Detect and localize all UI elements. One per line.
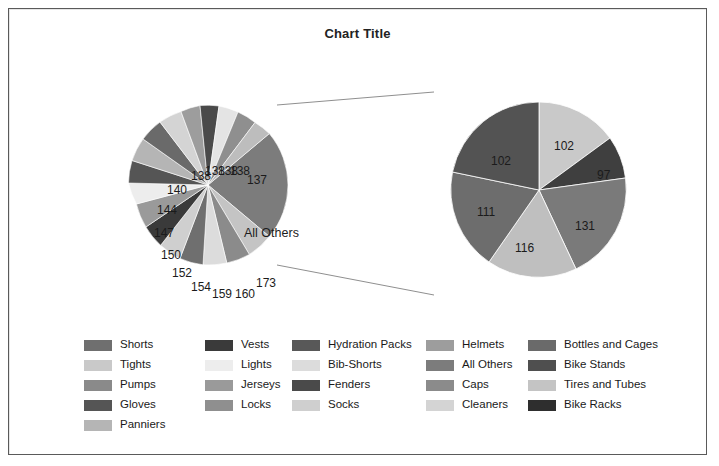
pie-label-secondary: 102 <box>491 154 511 168</box>
legend-swatch-icon <box>292 340 320 351</box>
legend-item[interactable]: Lights <box>205 355 281 375</box>
legend-swatch-icon <box>84 360 112 371</box>
legend-swatch-icon <box>205 340 233 351</box>
connector-line-top <box>277 92 434 105</box>
legend-swatch-icon <box>528 340 556 351</box>
legend-swatch-icon <box>426 360 454 371</box>
pie-label-secondary: 116 <box>515 241 534 255</box>
legend-swatch-icon <box>528 360 556 371</box>
legend-item[interactable]: Cleaners <box>426 395 513 415</box>
chart-title: Chart Title <box>9 26 706 41</box>
legend-swatch-icon <box>205 380 233 391</box>
legend-item-label: Bottles and Cages <box>564 339 658 351</box>
legend-item[interactable]: Bike Racks <box>528 395 658 415</box>
legend-item[interactable]: All Others <box>426 355 513 375</box>
legend-item-label: Helmets <box>462 339 504 351</box>
legend-item[interactable]: Gloves <box>84 395 165 415</box>
pie-label: 154 <box>191 280 211 294</box>
pie-label: 147 <box>154 226 174 240</box>
legend-swatch-icon <box>205 360 233 371</box>
legend-item[interactable]: Helmets <box>426 335 513 355</box>
pie-label-secondary: 102 <box>554 139 574 153</box>
primary-pie: All Others 138 138 138 138 137 140 144 1… <box>129 105 299 301</box>
legend-item-label: Gloves <box>120 399 156 411</box>
legend-item-label: Panniers <box>120 419 165 431</box>
legend-item-label: Pumps <box>120 379 156 391</box>
legend-swatch-icon <box>205 400 233 411</box>
pie-label: 160 <box>235 287 255 301</box>
legend-column: Bottles and CagesBike StandsTires and Tu… <box>528 335 658 415</box>
plot-area: All Others 138 138 138 138 137 140 144 1… <box>9 47 708 327</box>
legend-item-label: Cleaners <box>462 399 508 411</box>
connector-line-bottom <box>277 265 434 295</box>
legend-item[interactable]: Shorts <box>84 335 165 355</box>
legend-item-label: Tires and Tubes <box>564 379 646 391</box>
pie-label: 173 <box>256 276 276 290</box>
pie-label-all-others: All Others <box>244 226 299 240</box>
legend-swatch-icon <box>292 360 320 371</box>
legend-item-label: Hydration Packs <box>328 339 412 351</box>
legend-swatch-icon <box>426 380 454 391</box>
legend-item[interactable]: Panniers <box>84 415 165 435</box>
legend-item-label: Lights <box>241 359 272 371</box>
legend-item-label: Caps <box>462 379 489 391</box>
legend-item-label: Fenders <box>328 379 370 391</box>
legend-item-label: Bib-Shorts <box>328 359 382 371</box>
legend-item[interactable]: Fenders <box>292 375 412 395</box>
legend-column: Hydration PacksBib-ShortsFendersSocks <box>292 335 412 415</box>
legend-item-label: Socks <box>328 399 359 411</box>
pie-label: 144 <box>157 203 177 217</box>
legend-swatch-icon <box>84 420 112 431</box>
legend-column: HelmetsAll OthersCapsCleaners <box>426 335 513 415</box>
pie-label-secondary: 97 <box>597 168 611 182</box>
legend-item[interactable]: Tires and Tubes <box>528 375 658 395</box>
legend-swatch-icon <box>426 340 454 351</box>
legend-swatch-icon <box>426 400 454 411</box>
legend-item-label: Jerseys <box>241 379 281 391</box>
legend-item[interactable]: Pumps <box>84 375 165 395</box>
legend-swatch-icon <box>84 340 112 351</box>
pie-label-secondary: 131 <box>575 219 595 233</box>
pie-label: 150 <box>161 248 181 262</box>
pie-label: 140 <box>167 183 187 197</box>
legend-item-label: Bike Racks <box>564 399 622 411</box>
legend-item[interactable]: Vests <box>205 335 281 355</box>
legend-swatch-icon <box>84 380 112 391</box>
pie-label-secondary: 111 <box>477 205 496 219</box>
legend-swatch-icon <box>84 400 112 411</box>
legend-item-label: All Others <box>462 359 513 371</box>
legend-item-label: Locks <box>241 399 271 411</box>
pie-label: 137 <box>247 173 267 187</box>
legend-item[interactable]: Bike Stands <box>528 355 658 375</box>
legend-item-label: Shorts <box>120 339 153 351</box>
legend-item[interactable]: Caps <box>426 375 513 395</box>
legend-item[interactable]: Socks <box>292 395 412 415</box>
chart-frame: Chart Title <box>8 8 707 455</box>
chart-legend: ShortsTightsPumpsGlovesPanniers VestsLig… <box>9 335 708 435</box>
legend-swatch-icon <box>528 380 556 391</box>
legend-item-label: Bike Stands <box>564 359 625 371</box>
pie-label: 159 <box>212 287 232 301</box>
legend-swatch-icon <box>292 400 320 411</box>
legend-item-label: Vests <box>241 339 269 351</box>
legend-item[interactable]: Hydration Packs <box>292 335 412 355</box>
legend-item-label: Tights <box>120 359 151 371</box>
legend-swatch-icon <box>528 400 556 411</box>
legend-item[interactable]: Bottles and Cages <box>528 335 658 355</box>
legend-column: VestsLightsJerseysLocks <box>205 335 281 415</box>
pie-of-pie-svg: All Others 138 138 138 138 137 140 144 1… <box>9 47 708 327</box>
legend-column: ShortsTightsPumpsGlovesPanniers <box>84 335 165 435</box>
legend-item[interactable]: Locks <box>205 395 281 415</box>
legend-item[interactable]: Bib-Shorts <box>292 355 412 375</box>
legend-item[interactable]: Jerseys <box>205 375 281 395</box>
legend-item[interactable]: Tights <box>84 355 165 375</box>
pie-label: 152 <box>172 266 192 280</box>
legend-swatch-icon <box>292 380 320 391</box>
secondary-pie: 102 97 131 116 111 102 <box>451 102 626 277</box>
